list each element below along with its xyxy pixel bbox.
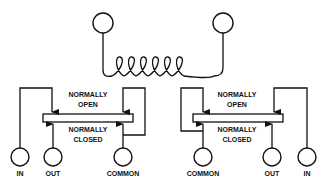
right-in-terminal: [298, 148, 316, 166]
right-nc-label-2: CLOSED: [222, 136, 251, 143]
right-relay: NORMALLY OPEN NORMALLY CLOSED COMMON OUT…: [181, 88, 316, 177]
coil: [93, 13, 233, 78]
right-common-terminal: [194, 148, 212, 166]
right-common-loop: [181, 88, 203, 131]
left-common-terminal: [114, 148, 132, 166]
left-nc-label-2: CLOSED: [73, 136, 102, 143]
left-in-label: IN: [17, 170, 24, 177]
relay-diagram: NORMALLY OPEN NORMALLY CLOSED IN OUT COM…: [0, 0, 328, 180]
left-no-label-1: NORMALLY: [68, 91, 107, 98]
right-out-label: OUT: [265, 170, 281, 177]
left-no-label-2: OPEN: [78, 101, 98, 108]
left-common-loop: [123, 88, 145, 135]
coil-terminal-right: [213, 13, 233, 33]
right-in-label: IN: [304, 170, 311, 177]
left-out-label: OUT: [46, 170, 62, 177]
left-contact-bar: [43, 114, 133, 122]
right-common-label: COMMON: [187, 170, 220, 177]
left-common-label: COMMON: [107, 170, 140, 177]
coil-terminal-left: [93, 13, 113, 33]
left-out-terminal: [44, 148, 62, 166]
right-no-label-2: OPEN: [227, 101, 247, 108]
right-out-terminal: [263, 148, 281, 166]
right-no-label-1: NORMALLY: [217, 91, 256, 98]
left-in-terminal: [11, 148, 29, 166]
coil-winding: [103, 33, 223, 78]
right-contact-bar: [193, 114, 283, 122]
left-relay: NORMALLY OPEN NORMALLY CLOSED IN OUT COM…: [11, 88, 145, 177]
left-nc-label-1: NORMALLY: [68, 126, 107, 133]
right-nc-label-1: NORMALLY: [217, 126, 256, 133]
